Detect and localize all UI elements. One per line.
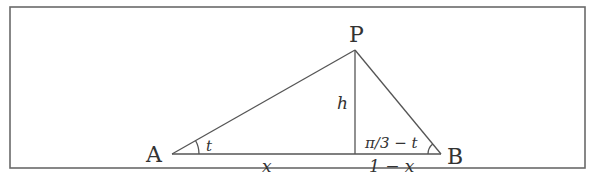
diagram-frame: [10, 7, 585, 168]
triangle-diagram: A P B t π/3 − t h x 1 − x: [0, 0, 591, 178]
base-left-label: x: [262, 156, 272, 176]
vertex-label-b: B: [447, 144, 463, 169]
base-right-label: 1 − x: [369, 156, 415, 176]
angle-arc-b: [428, 144, 433, 154]
height-label: h: [337, 93, 348, 113]
angle-label-b: π/3 − t: [364, 134, 419, 152]
side-ap: [172, 50, 355, 154]
angle-arc-a: [196, 141, 200, 155]
angle-label-t: t: [206, 137, 213, 155]
vertex-label-p: P: [349, 22, 364, 47]
vertex-label-a: A: [145, 142, 163, 167]
